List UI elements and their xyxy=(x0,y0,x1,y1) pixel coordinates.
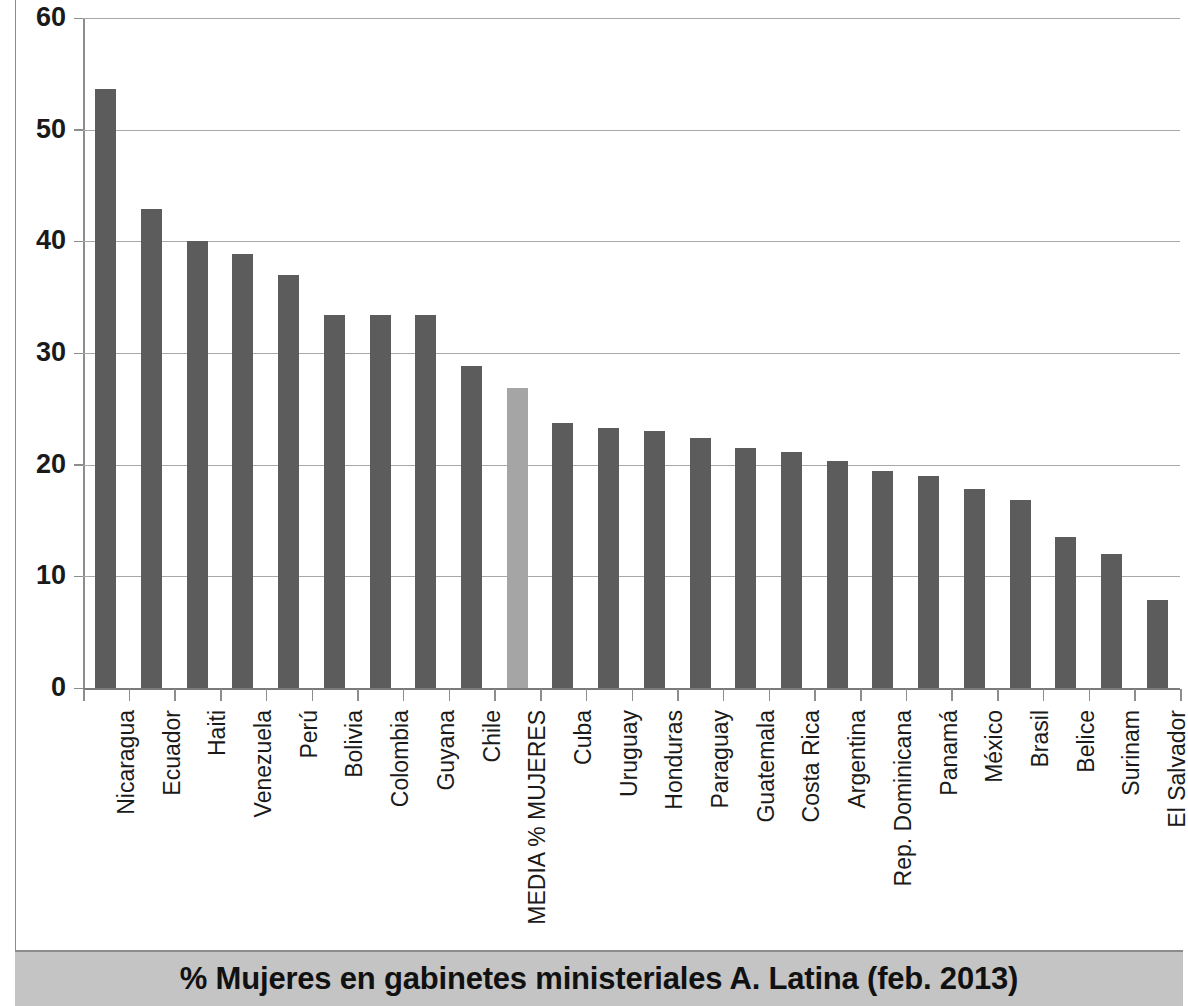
x-axis-label: Colombia xyxy=(389,710,412,807)
bar xyxy=(461,366,482,688)
x-axis-label: MEDIA % MUJERES xyxy=(526,710,549,925)
x-axis-label: Chile xyxy=(481,710,504,762)
x-axis-label: Cuba xyxy=(572,710,595,765)
x-axis-label: Brasil xyxy=(1029,710,1052,768)
bar xyxy=(872,471,893,688)
x-axis-label: Uruguay xyxy=(618,710,641,797)
bar xyxy=(781,452,802,688)
x-axis-label: Nicaragua xyxy=(115,710,138,815)
bar-highlight xyxy=(507,388,528,688)
chart-figure: 0102030405060 NicaraguaEcuadorHaitiVenez… xyxy=(0,0,1188,1006)
x-axis-label: El Salvador xyxy=(1166,710,1188,828)
bar xyxy=(141,209,162,688)
x-axis-label: Rep. Dominicana xyxy=(892,710,915,886)
bar xyxy=(370,315,391,688)
bar xyxy=(1147,600,1168,688)
x-axis-label: Guatemala xyxy=(755,710,778,823)
bar xyxy=(1055,537,1076,688)
y-axis-tick-label: 20 xyxy=(6,451,66,478)
x-axis-label: Haiti xyxy=(206,710,229,756)
bar xyxy=(1101,554,1122,688)
bar xyxy=(415,315,436,688)
x-axis-label: México xyxy=(983,710,1006,783)
bar xyxy=(552,423,573,688)
y-axis-tick-label: 50 xyxy=(6,116,66,143)
bar xyxy=(187,241,208,688)
bar xyxy=(1010,500,1031,688)
bar xyxy=(598,428,619,688)
bar-series xyxy=(83,18,1180,688)
bar xyxy=(278,275,299,688)
chart-title: % Mujeres en gabinetes ministeriales A. … xyxy=(180,961,1018,997)
bar xyxy=(918,476,939,688)
x-axis-label: Surinam xyxy=(1120,710,1143,796)
x-axis-labels: NicaraguaEcuadorHaitiVenezuelaPerúBolivi… xyxy=(0,700,1188,950)
x-axis-label: Guyana xyxy=(435,710,458,791)
bar xyxy=(95,89,116,688)
x-axis-label: Perú xyxy=(298,710,321,759)
bar xyxy=(964,489,985,688)
y-axis-tick-label: 0 xyxy=(6,674,66,701)
x-axis-label: Argentina xyxy=(846,710,869,808)
x-axis-label: Honduras xyxy=(663,710,686,810)
x-axis-label: Venezuela xyxy=(252,710,275,817)
x-axis-label: Paraguay xyxy=(709,710,732,808)
bar xyxy=(690,438,711,688)
y-axis-tick-label: 30 xyxy=(6,339,66,366)
y-axis-tick-label: 60 xyxy=(6,4,66,31)
x-axis-label: Belice xyxy=(1075,710,1098,773)
bar xyxy=(735,448,756,688)
bar xyxy=(324,315,345,688)
x-axis-label: Bolivia xyxy=(343,710,366,778)
y-axis-tick-label: 10 xyxy=(6,562,66,589)
chart-title-band: % Mujeres en gabinetes ministeriales A. … xyxy=(15,952,1183,1006)
y-axis-tick-label: 40 xyxy=(6,227,66,254)
x-axis-label: Costa Rica xyxy=(800,710,823,822)
x-axis-label: Panamá xyxy=(938,710,961,796)
bar xyxy=(827,461,848,688)
bar xyxy=(232,254,253,688)
plot-area xyxy=(83,18,1180,688)
bar xyxy=(644,431,665,688)
x-axis-label: Ecuador xyxy=(161,710,184,796)
